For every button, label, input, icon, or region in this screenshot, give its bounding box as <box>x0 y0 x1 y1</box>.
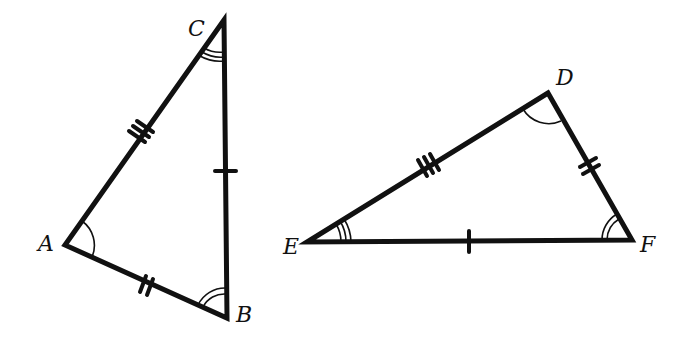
vertex-label-f: F <box>639 232 656 257</box>
triangle-abc-outline <box>65 20 227 318</box>
triangle-def-outline <box>307 93 632 242</box>
angle-d-single-arc <box>523 109 561 124</box>
triangle-def: D E F <box>282 65 656 259</box>
vertex-label-e: E <box>282 234 299 259</box>
vertex-label-c: C <box>188 16 205 41</box>
angle-f-double-arc <box>602 214 619 240</box>
vertex-label-b: B <box>235 302 252 327</box>
triangle-abc: C A B <box>36 16 252 327</box>
vertex-label-a: A <box>36 231 54 256</box>
vertex-label-d: D <box>555 65 574 90</box>
diagram-canvas: C A B D E <box>0 0 696 348</box>
